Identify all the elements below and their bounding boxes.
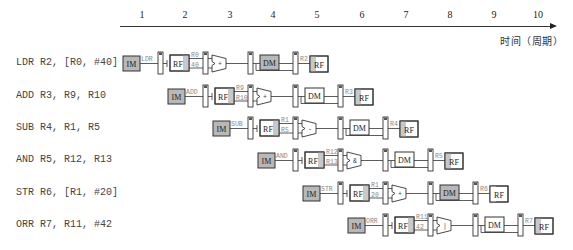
pipeline-register	[158, 52, 163, 74]
register-file-read-block: RF	[350, 185, 369, 201]
opcode-label: AND	[276, 153, 288, 160]
tick-9: 9	[492, 9, 497, 20]
pipeline-register	[203, 85, 208, 107]
instruction-memory-block: IM	[168, 89, 185, 104]
im-label: IM	[172, 93, 182, 102]
pipeline-register	[383, 214, 388, 236]
instruction-memory-block: IM	[258, 153, 275, 168]
dst-label: R3	[345, 89, 353, 96]
opcode-label: LDR	[141, 56, 153, 63]
data-memory-block: DM	[440, 185, 459, 200]
src1-label: R1	[371, 182, 379, 189]
src2-label: 20	[371, 192, 379, 199]
instruction-memory-block: IM	[348, 218, 365, 233]
src2-label: R10	[236, 95, 248, 102]
instruction-label: STR R6, [R1, #20]	[16, 187, 118, 198]
instruction-label: ORR R7, R11, #42	[16, 219, 112, 230]
src1-label: R9	[236, 85, 244, 92]
opcode-label: ORR	[366, 218, 378, 225]
register-file-write-block: RF	[490, 186, 508, 202]
arrow-right-icon	[550, 23, 557, 29]
dm-label: DM	[308, 92, 321, 101]
register-file-write-block: RF	[535, 218, 553, 234]
rf-label: RF	[539, 223, 549, 232]
dst-label: R6	[480, 186, 488, 193]
src1-label: R12	[326, 149, 338, 156]
rf-label: RF	[449, 158, 459, 167]
pipeline-register	[473, 182, 478, 204]
pipeline-register	[338, 85, 343, 107]
register-file-read-block: RF	[395, 217, 414, 233]
dst-label: R2	[300, 56, 308, 63]
register-file-read-block: RF	[260, 120, 279, 136]
pipeline-register	[248, 117, 253, 139]
src2-label: 40	[191, 62, 199, 69]
dm-label: DM	[398, 156, 411, 165]
dm-label: DM	[263, 59, 276, 68]
register-file-read-block: RF	[215, 88, 234, 104]
rf-label: RF	[218, 93, 228, 102]
src2-label: 42	[416, 224, 424, 231]
rf-label: RF	[263, 125, 273, 134]
pipeline-register	[428, 149, 433, 171]
tick-2: 2	[183, 9, 188, 20]
alu-block: |	[437, 217, 451, 234]
instruction-memory-block: IM	[123, 56, 140, 71]
rf-label: RF	[314, 61, 324, 70]
tick-10: 10	[533, 9, 543, 20]
data-memory-block: DM	[395, 152, 414, 167]
tick-5: 5	[315, 9, 320, 20]
src2-label: R13	[326, 159, 338, 166]
dst-label: R4	[390, 121, 398, 128]
data-memory-block: DM	[260, 55, 279, 70]
alu-op-label: |	[443, 223, 447, 230]
opcode-label: SUB	[231, 121, 243, 128]
data-memory-block: DM	[350, 120, 369, 135]
im-label: IM	[307, 190, 317, 199]
src2-label: R5	[281, 127, 289, 134]
tick-6: 6	[360, 9, 365, 20]
alu-op-label: &	[353, 158, 357, 165]
instruction-memory-block: IM	[213, 121, 230, 136]
instruction-label: AND R5, R12, R13	[16, 154, 112, 165]
alu-op-label: +	[398, 191, 402, 198]
alu-op-label: -	[308, 126, 312, 133]
alu-op-label: +	[218, 61, 222, 68]
dst-label: R5	[435, 153, 443, 160]
register-file-read-block: RF	[305, 152, 324, 168]
pipeline-register	[293, 52, 298, 74]
tick-8: 8	[448, 9, 453, 20]
rf-label: RF	[359, 94, 369, 103]
axis-line	[120, 26, 552, 27]
register-file-write-block: RF	[310, 56, 328, 72]
pipeline-register	[473, 214, 478, 236]
im-label: IM	[352, 222, 362, 231]
alu-block: +	[212, 55, 226, 72]
pipeline-register	[338, 182, 343, 204]
tick-3: 3	[228, 9, 233, 20]
pipeline-register	[518, 214, 523, 236]
instruction-memory-block: IM	[303, 186, 320, 201]
register-file-write-block: RF	[400, 121, 418, 137]
data-memory-block: DM	[305, 88, 324, 103]
rf-label: RF	[404, 126, 414, 135]
src1-label: R1	[281, 117, 289, 124]
im-label: IM	[262, 157, 272, 166]
data-memory-block: DM	[485, 217, 504, 232]
alu-block: -	[302, 120, 316, 137]
instruction-label: LDR R2, [R0, #40]	[16, 57, 118, 68]
dst-label: R7	[525, 218, 533, 225]
im-label: IM	[127, 60, 137, 69]
register-file-write-block: RF	[445, 153, 463, 169]
register-file-read-block: RF	[170, 55, 189, 71]
alu-block: &	[347, 152, 361, 169]
rf-label: RF	[398, 222, 408, 231]
dm-label: DM	[353, 124, 366, 133]
pipeline-register	[338, 149, 343, 171]
rf-label: RF	[173, 60, 183, 69]
opcode-label: STR	[321, 186, 333, 193]
pipeline-register	[293, 85, 298, 107]
dm-label: DM	[443, 189, 456, 198]
opcode-label: ADD	[186, 89, 198, 96]
rf-label: RF	[308, 157, 318, 166]
